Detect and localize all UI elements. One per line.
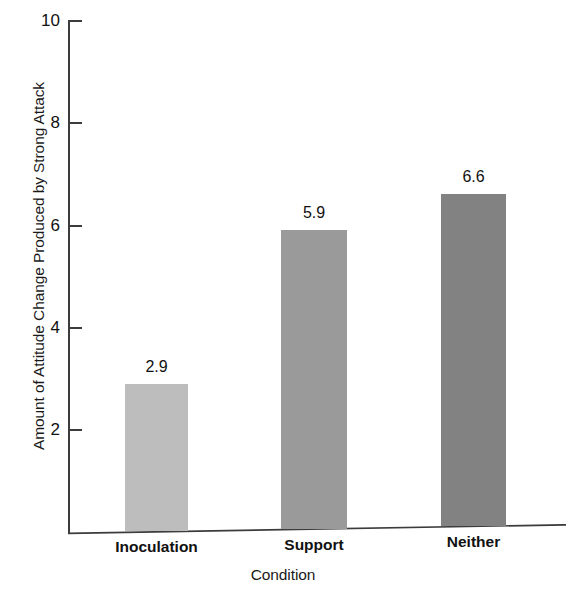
bar-support[interactable] — [281, 230, 347, 528]
bar-value-inoculation: 2.9 — [127, 359, 187, 375]
x-tick-label-neither: Neither — [404, 534, 544, 550]
y-tick-4 — [69, 327, 82, 329]
bar-neither[interactable] — [441, 194, 506, 525]
bar-value-support: 5.9 — [284, 205, 344, 221]
y-tick-label-8: 8 — [26, 114, 60, 131]
y-tick-label-4: 4 — [26, 319, 60, 336]
y-axis-line — [68, 20, 70, 534]
y-tick-2 — [69, 429, 82, 431]
y-tick-10 — [69, 20, 82, 22]
y-axis-title: Amount of Attitude Change Produced by St… — [26, 0, 52, 536]
x-tick-label-inoculation: Inoculation — [87, 539, 227, 555]
y-tick-6 — [69, 225, 82, 227]
x-axis-title: Condition — [0, 566, 566, 584]
y-tick-label-10: 10 — [26, 12, 60, 29]
y-tick-8 — [69, 122, 82, 124]
bar-chart: Amount of Attitude Change Produced by St… — [0, 0, 566, 593]
y-tick-label-2: 2 — [26, 421, 60, 438]
bar-inoculation[interactable] — [125, 384, 188, 531]
x-tick-label-support: Support — [244, 537, 384, 553]
bar-value-neither: 6.6 — [444, 169, 504, 185]
y-tick-label-6: 6 — [26, 217, 60, 234]
